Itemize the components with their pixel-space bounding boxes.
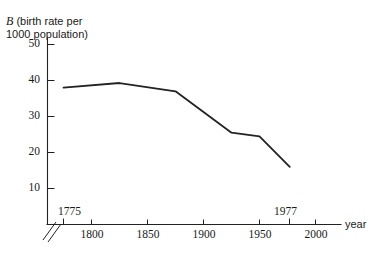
x-tick-label-1800: 1800 (72, 228, 112, 240)
x-axis-name: year (345, 218, 366, 230)
y-tick-label-20: 20 (14, 145, 40, 157)
x-tick-label-2000: 2000 (296, 228, 336, 240)
y-axis-ticks (48, 45, 55, 189)
y-tick-label-50: 50 (14, 37, 40, 49)
birth-rate-line (64, 83, 290, 167)
x-tick-label-1950: 1950 (240, 228, 280, 240)
x-axis-ticks (64, 219, 316, 225)
x-tick-label-1900: 1900 (184, 228, 224, 240)
chart-plot-area (0, 0, 369, 256)
y-tick-label-40: 40 (14, 73, 40, 85)
x-label-end-1977: 1977 (274, 205, 297, 217)
y-tick-label-30: 30 (14, 109, 40, 121)
x-label-start-1775: 1775 (58, 205, 81, 217)
x-tick-label-1850: 1850 (128, 228, 168, 240)
y-tick-label-10: 10 (14, 181, 40, 193)
